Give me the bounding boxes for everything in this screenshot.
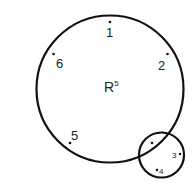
point-dot-2 bbox=[166, 53, 169, 56]
point-label-6: 6 bbox=[56, 56, 63, 71]
circle-diagram: 1 2 6 5 3 4 R5 bbox=[0, 0, 195, 187]
center-label-superscript: 5 bbox=[114, 79, 119, 88]
point-label-1: 1 bbox=[106, 25, 113, 40]
point-label-2: 2 bbox=[158, 58, 165, 73]
point-label-5: 5 bbox=[71, 128, 78, 143]
point-label-3: 3 bbox=[172, 151, 177, 160]
center-label: R5 bbox=[104, 79, 119, 95]
point-dot-intersection bbox=[151, 142, 154, 145]
center-label-main: R bbox=[104, 79, 114, 95]
point-dot-6 bbox=[52, 53, 55, 56]
point-label-4: 4 bbox=[159, 167, 164, 176]
point-dot-4 bbox=[156, 169, 158, 171]
point-dot-3 bbox=[179, 153, 181, 155]
point-dot-1 bbox=[109, 21, 112, 24]
diagram-canvas: 1 2 6 5 3 4 R5 bbox=[0, 0, 195, 187]
